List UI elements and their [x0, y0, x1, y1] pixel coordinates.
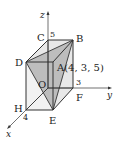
- vertex-label-A: A(4, 3, 5): [56, 62, 104, 73]
- y-axis-label: y: [106, 90, 113, 100]
- vertex-label-E: E: [49, 115, 56, 126]
- z-axis-arrow-icon: [47, 11, 50, 15]
- y-tick-3: 3: [76, 78, 81, 87]
- vertex-label-O: O: [38, 79, 46, 90]
- x-tick-4: 4: [23, 113, 28, 122]
- z-tick-5: 5: [50, 30, 55, 39]
- vertex-label-H: H: [14, 103, 23, 114]
- vertex-label-B: B: [76, 33, 83, 44]
- z-axis-label: z: [39, 10, 45, 20]
- vertex-label-F: F: [76, 92, 83, 103]
- x-axis-label: x: [6, 129, 11, 139]
- vertex-label-D: D: [15, 57, 23, 68]
- vertex-label-C: C: [37, 32, 45, 43]
- box-diagram: z y x 5 3 4 C B D A(4, 3, 5) O F H E: [0, 0, 121, 141]
